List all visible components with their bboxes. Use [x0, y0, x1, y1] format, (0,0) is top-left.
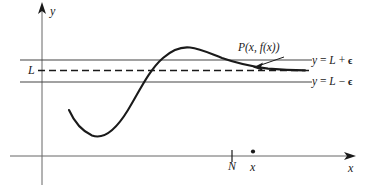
point-p-label: P(x, f(x)) [238, 42, 280, 54]
upper-band-y: y [312, 54, 317, 66]
upper-band-value: L [329, 54, 335, 66]
limit-at-infinity-figure: y x L N x P(x, f(x)) y = L + ϵ y = L − ϵ [0, 0, 367, 189]
x-axis [10, 152, 356, 160]
lower-band-equals: = [320, 75, 327, 87]
x-point-dot [251, 149, 255, 153]
y-axis [38, 2, 46, 185]
n-marker-label: N [228, 160, 236, 172]
upper-band-sign: + [339, 54, 346, 66]
upper-band-label: y = L + ϵ [312, 55, 352, 67]
x-axis-label: x [348, 162, 353, 174]
lower-band-y: y [312, 75, 317, 87]
lower-band-epsilon: ϵ [348, 76, 352, 87]
lower-band-sign: − [339, 75, 346, 87]
upper-band-equals: = [320, 54, 327, 66]
figure-canvas [0, 0, 367, 189]
function-curve [69, 47, 305, 136]
upper-band-epsilon: ϵ [348, 55, 352, 66]
limit-value-label: L [28, 64, 35, 76]
lower-band-value: L [329, 75, 335, 87]
x-marker-label: x [250, 161, 255, 173]
y-axis-label: y [50, 5, 55, 17]
lower-band-label: y = L − ϵ [312, 76, 352, 88]
